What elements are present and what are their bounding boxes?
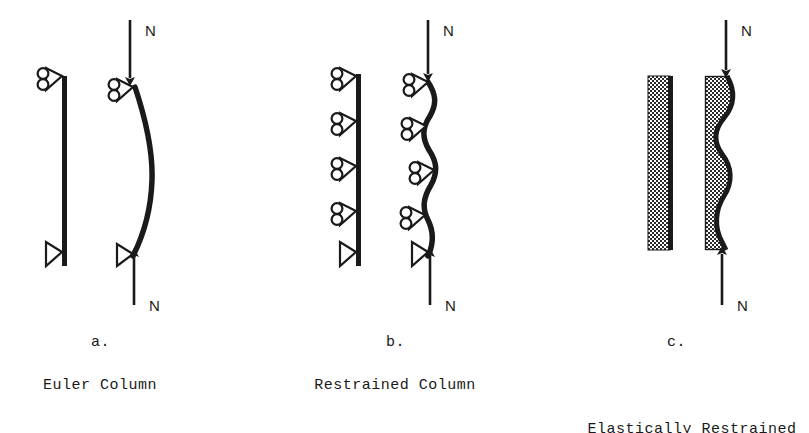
roller-support-icon [109,79,133,101]
panel-letter-b: b. [386,334,405,351]
deformed-elastic-column [705,20,733,305]
roller-support-icon [404,74,428,96]
pin-support-icon [117,244,133,266]
load-label-top-c: N [741,22,752,39]
deformed-euler-column [109,20,152,305]
roller-support-icon [332,113,356,135]
roller-support-icon [401,207,425,229]
undeformed-elastic-column [648,76,673,250]
roller-support-icon [332,203,356,225]
load-label-bottom-c: N [737,297,748,314]
panel-c [648,20,733,305]
panel-letter-c: c. [667,334,686,351]
roller-support-icon [38,68,62,90]
undeformed-restrained-column [332,68,359,266]
panel-caption-b: Restrained Column [295,375,495,397]
roller-support-icon [332,68,356,90]
panel-caption-a: Euler Column [0,375,200,397]
panel-b [332,20,436,305]
undeformed-euler-column [38,68,65,266]
pin-support-icon [46,242,62,266]
roller-support-icon [332,158,356,180]
load-label-bottom-a: N [149,297,160,314]
figure-canvas [0,0,809,433]
load-label-bottom-b: N [445,297,456,314]
pin-support-icon [340,242,356,266]
panel-caption-c: Elastically Restrained Column [575,375,809,433]
panel-a [38,20,152,305]
deformed-restrained-column [401,20,436,305]
load-label-top-b: N [443,22,454,39]
panel-caption-c-line1: Elastically Restrained [575,419,809,433]
pin-support-icon [412,242,428,266]
panel-letter-a: a. [91,334,110,351]
load-label-top-a: N [145,22,156,39]
buckling-figure: N N N N N N a. b. c. Euler Column Restra… [0,0,809,433]
